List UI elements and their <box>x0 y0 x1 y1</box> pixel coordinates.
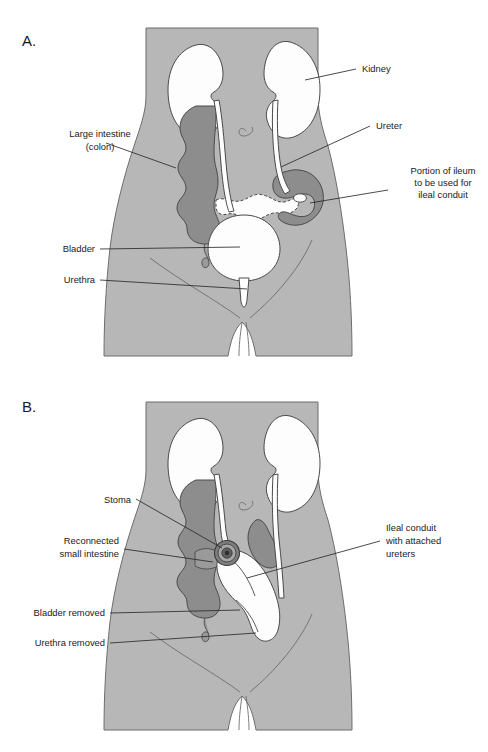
label-reconnected-b-line1: Reconnected <box>64 535 119 546</box>
label-conduit-b-line3: ureters <box>386 548 415 559</box>
label-urethra-a: Urethra <box>64 274 96 285</box>
label-ileum-a-line1: Portion of ileum <box>410 165 475 176</box>
ileum-lumen-a <box>294 194 307 202</box>
label-reconnected-b-line2: small intestine <box>60 548 119 559</box>
bladder-a <box>208 215 280 281</box>
label-colon-a-line1: Large intestine <box>69 128 131 139</box>
label-conduit-b-line1: Ileal conduit <box>386 522 436 533</box>
label-bladder-removed-b: Bladder removed <box>34 607 105 618</box>
ileal-conduit-diagram: A. <box>0 0 488 752</box>
label-kidney-a: Kidney <box>362 63 391 74</box>
figure-root: A. <box>0 0 488 752</box>
label-bladder-a: Bladder <box>63 243 95 254</box>
label-urethra-removed-b: Urethra removed <box>35 637 105 648</box>
label-colon-a-line2: (colon) <box>86 141 115 152</box>
label-conduit-b-line2: with attached <box>385 535 441 546</box>
label-ileum-a-line3: ileal conduit <box>418 189 468 200</box>
panel-b-letter: B. <box>22 398 36 415</box>
label-stoma-b: Stoma <box>104 494 132 505</box>
label-ureter-a: Ureter <box>376 120 402 131</box>
label-ileum-a-line2: to be used for <box>414 177 471 188</box>
stoma-b <box>215 541 240 566</box>
panel-a-letter: A. <box>22 32 36 49</box>
